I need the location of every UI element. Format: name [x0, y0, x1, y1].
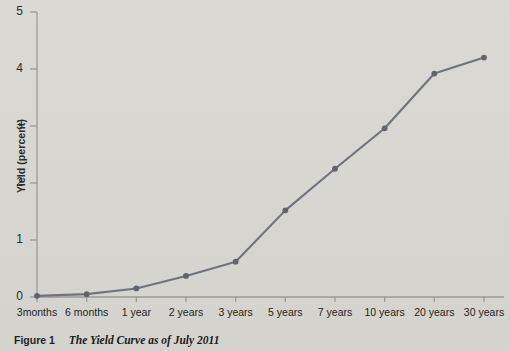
- data-series-line: [37, 58, 484, 296]
- data-point-marker: [34, 293, 40, 299]
- y-axis-tick-label: 0: [7, 289, 23, 303]
- y-axis-tick-label: 2: [7, 175, 23, 189]
- x-axis-tick-label: 10 years: [365, 306, 405, 318]
- data-point-marker: [233, 259, 239, 265]
- data-point-marker: [84, 291, 90, 297]
- data-point-marker: [382, 125, 388, 131]
- x-axis-tick-label: 20 years: [414, 306, 454, 318]
- data-point-marker: [133, 286, 139, 292]
- y-axis-tick-label: 3: [7, 118, 23, 132]
- figure-caption: Figure 1The Yield Curve as of July 2011: [14, 330, 219, 348]
- data-point-marker: [183, 273, 189, 279]
- figure-number: Figure 1: [14, 334, 55, 346]
- figure-title: The Yield Curve as of July 2011: [69, 334, 220, 346]
- data-point-marker: [431, 71, 437, 77]
- x-axis-tick-label: 7 years: [318, 306, 352, 318]
- y-axis-tick-label: 5: [7, 4, 23, 18]
- x-axis-tick-label: 30 years: [464, 306, 504, 318]
- x-axis-tick-label: 6 months: [65, 306, 108, 318]
- x-axis-tick-label: 5 years: [268, 306, 302, 318]
- yield-curve-chart: [0, 0, 510, 351]
- y-axis-tick-label: 4: [7, 61, 23, 75]
- figure-yield-curve: Yield (percent) 012345 3months6 months1 …: [0, 0, 510, 351]
- data-point-marker: [481, 55, 487, 61]
- x-axis-tick-label: 2 years: [169, 306, 203, 318]
- data-point-marker: [282, 207, 288, 213]
- y-axis-tick-label: 1: [7, 232, 23, 246]
- x-axis-tick-label: 3 years: [218, 306, 252, 318]
- x-axis-tick-label: 3months: [17, 306, 57, 318]
- x-axis-tick-label: 1 year: [122, 306, 151, 318]
- data-point-marker: [332, 166, 338, 172]
